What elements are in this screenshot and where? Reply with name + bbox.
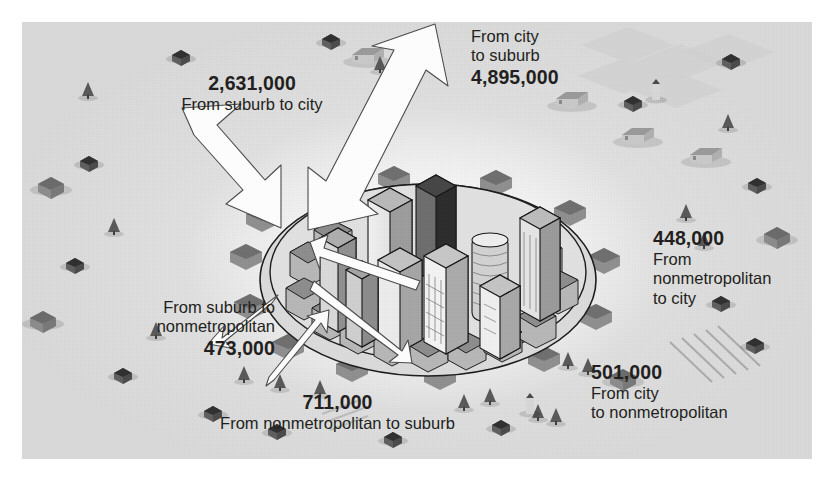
caption-nonmetropolitan-to-city-line2: nonmetropolitan <box>653 269 823 288</box>
value-city-to-suburb: 4,895,000 <box>471 66 646 89</box>
caption-nonmetropolitan-to-city-line1: From <box>653 250 823 269</box>
caption-city-to-suburb-line1: From city <box>471 27 646 46</box>
caption-suburb-to-city-line1: From suburb to city <box>132 95 372 114</box>
label-suburb-to-nonmetropolitan: From suburb to nonmetropolitan 473,000 <box>75 298 275 360</box>
value-suburb-to-city: 2,631,000 <box>132 72 372 95</box>
label-city-to-nonmetropolitan: 501,000 From city to nonmetropolitan <box>591 361 806 423</box>
value-nonmetropolitan-to-city: 448,000 <box>653 227 823 250</box>
caption-city-to-nonmetropolitan-line1: From city <box>591 384 806 403</box>
caption-nonmetropolitan-to-suburb-line1: From nonmetropolitan to suburb <box>165 414 510 433</box>
caption-nonmetropolitan-to-city-line3: to city <box>653 289 823 308</box>
caption-city-to-suburb-line2: to suburb <box>471 46 646 65</box>
value-city-to-nonmetropolitan: 501,000 <box>591 361 806 384</box>
arrow-nonmetropolitan-to-city <box>310 235 420 290</box>
label-nonmetropolitan-to-city: 448,000 From nonmetropolitan to city <box>653 227 823 308</box>
caption-suburb-to-nonmetropolitan-line2: nonmetropolitan <box>75 317 275 336</box>
value-nonmetropolitan-to-suburb: 711,000 <box>165 391 510 414</box>
label-suburb-to-city: 2,631,000 From suburb to city <box>132 72 372 114</box>
label-nonmetropolitan-to-suburb: 711,000 From nonmetropolitan to suburb <box>165 391 510 433</box>
migration-flow-infographic: 2,631,000 From suburb to city From city … <box>0 0 827 481</box>
label-city-to-suburb: From city to suburb 4,895,000 <box>471 27 646 89</box>
caption-city-to-nonmetropolitan-line2: to nonmetropolitan <box>591 403 806 422</box>
value-suburb-to-nonmetropolitan: 473,000 <box>75 337 275 360</box>
arrow-city-to-suburb <box>308 24 448 230</box>
caption-suburb-to-nonmetropolitan-line1: From suburb to <box>75 298 275 317</box>
arrow-suburb-to-city <box>182 104 281 228</box>
arrow-nonmetropolitan-to-suburb <box>266 310 329 386</box>
